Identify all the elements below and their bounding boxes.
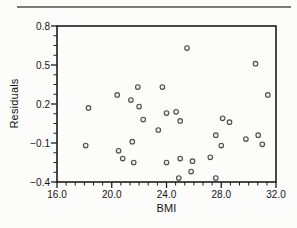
data-point: [160, 85, 165, 90]
data-point: [208, 155, 213, 160]
x-tick-label: 16.0: [40, 189, 74, 200]
data-point: [189, 169, 194, 174]
plot-box: [57, 26, 276, 182]
scatter-plot-figure: Residuals 0.80.50.2−0.1−0.416.020.024.02…: [0, 0, 297, 228]
data-point: [177, 176, 182, 181]
data-point: [190, 159, 195, 164]
y-tick-label: 0.5: [18, 60, 50, 71]
data-point: [244, 137, 249, 142]
data-point: [227, 120, 232, 125]
data-point: [256, 133, 261, 138]
x-axis-title: BMI: [57, 202, 276, 215]
data-point: [178, 119, 183, 124]
y-tick-label: −0.4: [18, 177, 50, 188]
data-point: [220, 116, 225, 121]
x-tick-label: 24.0: [150, 189, 184, 200]
data-point: [214, 176, 219, 181]
data-point: [185, 46, 190, 51]
data-point: [178, 156, 183, 161]
data-point: [130, 139, 135, 144]
data-point: [219, 143, 224, 148]
data-point: [129, 98, 134, 103]
data-point: [86, 106, 91, 111]
y-tick-label: 0.2: [18, 99, 50, 110]
data-point: [120, 156, 125, 161]
data-point: [115, 93, 120, 98]
data-point: [164, 160, 169, 165]
x-tick-label: 32.0: [259, 189, 293, 200]
x-tick-label: 28.0: [204, 189, 238, 200]
data-point: [253, 61, 258, 66]
data-point: [136, 85, 141, 90]
data-point: [83, 143, 88, 148]
data-point: [214, 133, 219, 138]
data-point: [137, 104, 142, 109]
data-point: [164, 111, 169, 116]
data-point: [116, 149, 121, 154]
data-point: [174, 110, 179, 115]
data-point: [141, 117, 146, 122]
data-point: [131, 160, 136, 165]
data-point: [266, 93, 271, 98]
data-point: [260, 142, 265, 147]
data-point: [156, 128, 161, 133]
y-tick-label: 0.8: [18, 21, 50, 32]
y-tick-label: −0.1: [18, 138, 50, 149]
x-tick-label: 20.0: [95, 189, 129, 200]
